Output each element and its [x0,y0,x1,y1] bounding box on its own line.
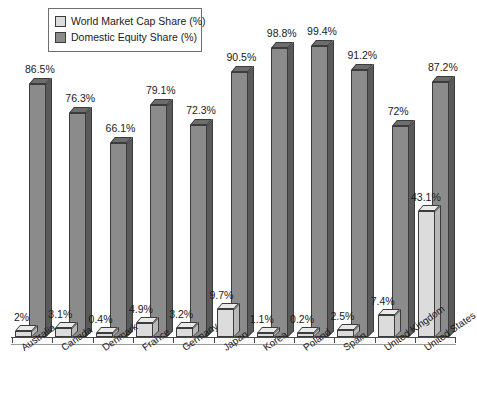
bar-world-market-cap-share [217,309,234,337]
x-axis-tick [214,338,215,343]
bar-side-face [46,78,52,337]
bar-domestic-equity-share [110,143,127,337]
bar-side-face [207,119,213,337]
value-label-domestic-equity-share: 87.2% [428,62,458,73]
x-axis-tick [133,338,134,343]
legend-label-domestic-equity-share: Domestic Equity Share (%) [71,32,197,43]
bar-domestic-equity-share [69,113,86,337]
x-axis-tick [334,338,335,343]
plot-area: 86.5%2%76.3%3.1%66.1%0.4%79.1%4.9%72.3%3… [0,0,477,404]
bar-side-face [86,107,92,337]
bar-front-face [110,143,127,337]
bar-side-face [167,99,173,337]
bar-side-face [288,42,294,337]
legend-swatch-domestic-equity-share [55,32,66,43]
bar-front-face [311,46,328,337]
x-axis-tick [12,338,13,343]
bar-front-face [351,70,368,337]
value-label-domestic-equity-share: 72.3% [186,105,216,116]
value-label-domestic-equity-share: 90.5% [227,52,257,63]
x-axis-tick [455,338,456,343]
value-label-world-market-cap-share: 9.7% [210,290,234,301]
x-axis-tick [375,338,376,343]
value-label-world-market-cap-share: 0.4% [89,314,113,325]
bar-domestic-equity-share [351,70,368,337]
bar-side-face [328,40,334,337]
bar-world-market-cap-share [378,315,395,337]
bar-side-face [248,66,254,337]
value-label-domestic-equity-share: 91.2% [347,50,377,61]
bar-domestic-equity-share [190,125,207,337]
value-label-world-market-cap-share: 2.5% [330,311,354,322]
bar-front-face [69,113,86,337]
x-axis-tick [173,338,174,343]
bar-domestic-equity-share [271,48,288,337]
value-label-domestic-equity-share: 98.8% [267,28,297,39]
bar-front-face [378,315,395,337]
bar-front-face [29,84,46,337]
home-bias-grouped-bar-chart: 86.5%2%76.3%3.1%66.1%0.4%79.1%4.9%72.3%3… [0,0,477,404]
legend-swatch-world-market-cap-share [55,16,66,27]
legend-label-world-market-cap-share: World Market Cap Share (%) [71,16,206,27]
value-label-domestic-equity-share: 66.1% [106,123,136,134]
value-label-domestic-equity-share: 79.1% [146,85,176,96]
value-label-world-market-cap-share: 3.2% [169,309,193,320]
value-label-world-market-cap-share: 1.1% [250,314,274,325]
bar-domestic-equity-share [29,84,46,337]
x-axis-tick [254,338,255,343]
x-axis-tick [294,338,295,343]
value-label-domestic-equity-share: 72% [388,106,409,117]
value-label-world-market-cap-share: 3.1% [48,309,72,320]
chart-legend: World Market Cap Share (%) Domestic Equi… [48,8,202,52]
x-axis-tick [93,338,94,343]
value-label-world-market-cap-share: 7.4% [371,296,395,307]
bar-domestic-equity-share [311,46,328,337]
x-axis-tick [415,338,416,343]
x-axis-line [11,337,456,338]
value-label-world-market-cap-share: 43.1% [411,192,441,203]
bar-side-face [449,76,455,337]
value-label-domestic-equity-share: 76.3% [65,93,95,104]
value-label-world-market-cap-share: 0.2% [290,314,314,325]
bar-front-face [271,48,288,337]
bar-side-face [409,120,415,337]
bar-front-face [190,125,207,337]
value-label-world-market-cap-share: 4.9% [129,304,153,315]
bar-front-face [217,309,234,337]
value-label-domestic-equity-share: 99.4% [307,26,337,37]
x-axis-tick [52,338,53,343]
value-label-world-market-cap-share: 2% [14,312,29,323]
legend-item-1: Domestic Equity Share (%) [55,30,195,45]
legend-item-0: World Market Cap Share (%) [55,14,195,29]
value-label-domestic-equity-share: 86.5% [25,64,55,75]
